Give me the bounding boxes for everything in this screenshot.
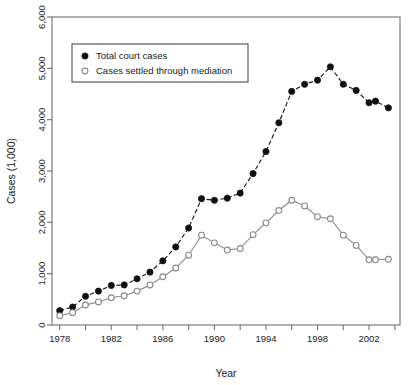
legend-marker-filled-circle [82, 53, 88, 59]
y-axis-tick-label: 5,000 [36, 56, 47, 80]
data-point [96, 299, 102, 305]
x-axis-tick-label: 1990 [204, 333, 225, 344]
data-point [82, 293, 88, 299]
data-point [314, 77, 320, 83]
data-point [211, 197, 217, 203]
data-point [327, 64, 333, 70]
data-point [372, 98, 378, 104]
y-axis-tick-label: 6,000 [36, 5, 47, 29]
data-point [263, 148, 269, 154]
data-point [366, 100, 372, 106]
x-axis-tick-label: 1986 [152, 333, 173, 344]
chart-legend: Total court casesCases settled through m… [72, 44, 248, 82]
data-point [108, 295, 114, 301]
data-point [212, 240, 218, 246]
y-axis-tick-label: 4,000 [36, 108, 47, 132]
data-point [366, 257, 372, 263]
data-point [70, 310, 76, 316]
data-point [134, 276, 140, 282]
data-point [373, 257, 379, 263]
data-point [134, 288, 140, 294]
data-point [173, 244, 179, 250]
data-point [385, 105, 391, 111]
y-axis-tick-label: 2,000 [36, 210, 47, 234]
data-point [263, 220, 269, 226]
data-point [276, 120, 282, 126]
data-point [147, 282, 153, 288]
data-point [315, 214, 321, 220]
data-point [302, 203, 308, 209]
y-axis-tick-label: 1,000 [36, 262, 47, 286]
data-point [340, 232, 346, 238]
chart-figure: 1978198219861990199419982002 01,0002,000… [0, 0, 413, 385]
series-line [60, 67, 389, 311]
data-point [147, 269, 153, 275]
x-axis-tick-label: 1982 [101, 333, 122, 344]
data-point [250, 170, 256, 176]
data-point [224, 247, 230, 253]
x-axis-tick-label: 1998 [307, 333, 328, 344]
data-point [199, 232, 205, 238]
series-cases-settled-through-mediation [57, 197, 391, 318]
cases-line-chart: 1978198219861990199419982002 01,0002,000… [0, 0, 413, 385]
x-axis-tick-label: 1978 [49, 333, 70, 344]
data-point [173, 265, 179, 271]
data-point [57, 313, 63, 319]
data-point [224, 195, 230, 201]
data-point [353, 243, 359, 249]
legend-label: Cases settled through mediation [96, 65, 232, 76]
data-point [289, 197, 295, 203]
data-point [289, 88, 295, 94]
legend-label: Total court cases [96, 50, 168, 61]
x-axis-tick-label: 2002 [358, 333, 379, 344]
data-point [160, 258, 166, 264]
data-point [276, 208, 282, 214]
data-point [160, 274, 166, 280]
data-point [250, 232, 256, 238]
data-point [198, 196, 204, 202]
data-point [237, 190, 243, 196]
legend-marker-open-circle [82, 68, 88, 74]
data-series-group [57, 64, 392, 319]
x-axis: 1978198219861990199419982002 [49, 325, 395, 344]
y-axis: 01,0002,0003,0004,0005,0006,000 [36, 5, 52, 328]
data-point [386, 256, 392, 262]
data-point [353, 87, 359, 93]
data-point [121, 282, 127, 288]
data-point [70, 304, 76, 310]
data-point [340, 81, 346, 87]
data-point [186, 252, 192, 258]
data-point [83, 302, 89, 308]
series-total-court-cases [57, 64, 392, 314]
y-axis-tick-label: 0 [36, 322, 47, 327]
data-point [302, 81, 308, 87]
data-point [186, 225, 192, 231]
x-axis-tick-label: 1994 [255, 333, 276, 344]
y-axis-tick-label: 3,000 [36, 159, 47, 183]
data-point [328, 216, 334, 222]
x-axis-title: Year [215, 367, 237, 379]
y-axis-title: Cases (1,000) [5, 138, 17, 204]
data-point [95, 288, 101, 294]
data-point [121, 293, 127, 299]
data-point [108, 282, 114, 288]
data-point [237, 246, 243, 252]
